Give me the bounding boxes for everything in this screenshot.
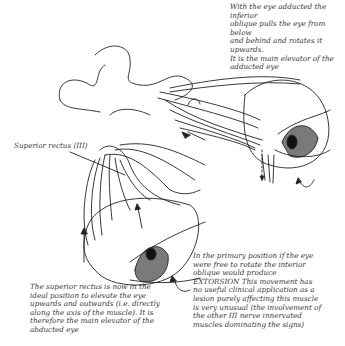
arrow-up-center xyxy=(138,208,142,228)
orbit-outline xyxy=(95,46,192,100)
abducted-eye xyxy=(84,198,205,285)
label-leader-line xyxy=(70,152,125,175)
eye-muscle-illustration xyxy=(0,0,345,346)
adducted-eye xyxy=(244,80,330,187)
upper-muscle-bundle xyxy=(158,77,300,150)
